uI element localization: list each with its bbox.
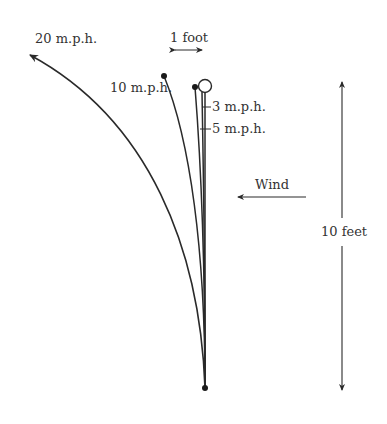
wind-deflection-diagram: 20 m.p.h. 1 foot 10 m.p.h. 3 m.p.h. 5 m.… <box>0 0 387 424</box>
curve-10mph <box>164 76 205 388</box>
label-10-feet: 10 feet <box>321 224 368 239</box>
curve-20mph <box>30 55 205 388</box>
tip-dot-10mph <box>161 73 167 79</box>
label-5mph: 5 m.p.h. <box>212 121 266 136</box>
label-10mph: 10 m.p.h. <box>110 80 172 95</box>
label-3mph: 3 m.p.h. <box>212 99 266 114</box>
label-1-foot: 1 foot <box>170 30 209 45</box>
tip-dot-5mph <box>192 84 198 90</box>
diagram-svg: 20 m.p.h. 1 foot 10 m.p.h. 3 m.p.h. 5 m.… <box>0 0 387 424</box>
label-wind: Wind <box>255 177 289 192</box>
label-20mph: 20 m.p.h. <box>35 31 97 46</box>
base-dot <box>202 385 208 391</box>
tip-circle-calm <box>199 80 212 93</box>
